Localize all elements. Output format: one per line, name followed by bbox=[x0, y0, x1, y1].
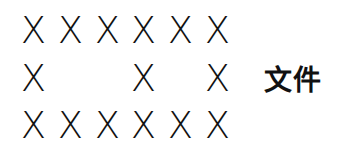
x-mark: X bbox=[199, 60, 236, 97]
x-mark: X bbox=[199, 12, 236, 49]
x-mark: X bbox=[162, 12, 199, 49]
x-mark: X bbox=[162, 107, 199, 144]
file-label: 文件 bbox=[264, 58, 322, 98]
x-mark: X bbox=[89, 12, 126, 49]
x-mark: X bbox=[125, 12, 162, 49]
x-mark: X bbox=[15, 60, 52, 97]
x-mark: X bbox=[52, 12, 89, 49]
x-mark: X bbox=[89, 107, 126, 144]
x-mark: X bbox=[52, 107, 89, 144]
x-mark: X bbox=[125, 107, 162, 144]
x-mark: X bbox=[15, 107, 52, 144]
x-mark: X bbox=[125, 60, 162, 97]
x-mark: X bbox=[199, 107, 236, 144]
x-mark: X bbox=[15, 12, 52, 49]
